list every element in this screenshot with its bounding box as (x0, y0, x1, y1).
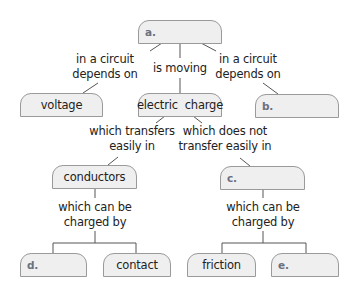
link-text-line: which can be (58, 200, 131, 215)
link-label-charge-c: which does not transfer easily in (179, 124, 272, 154)
link-text-line: transfer easily in (179, 139, 272, 154)
concept-box-contact: contact (103, 253, 171, 277)
link-label-conductors-children: which can be charged by (58, 200, 131, 230)
link-text-line: which does not (179, 124, 272, 139)
concept-box-conductors: conductors (52, 165, 137, 189)
link-text-line: charged by (226, 215, 299, 230)
link-label-a-b: in a circuit depends on (215, 52, 280, 82)
link-label-charge-conductors: which transfers easily in (89, 124, 175, 154)
blank-label: b. (262, 100, 273, 112)
link-text-line: depends on (215, 67, 280, 82)
blank-label: e. (278, 259, 289, 271)
concept-box-voltage: voltage (20, 93, 103, 117)
link-text-line: charged by (58, 215, 131, 230)
blank-label: d. (27, 259, 38, 271)
concept-label: conductors (64, 170, 126, 184)
blank-label: a. (145, 26, 156, 38)
concept-box-c[interactable]: c. (220, 166, 305, 190)
concept-box-electric-charge: electric charge (138, 93, 222, 117)
link-text-line: easily in (89, 139, 175, 154)
link-text-line: is moving (153, 61, 207, 76)
concept-box-d[interactable]: d. (20, 253, 87, 277)
concept-label: voltage (41, 98, 83, 112)
link-label-c-children: which can be charged by (226, 200, 299, 230)
concept-box-friction: friction (187, 253, 256, 277)
concept-box-b[interactable]: b. (255, 94, 339, 118)
concept-box-a[interactable]: a. (138, 20, 222, 44)
link-label-a-voltage: in a circuit depends on (72, 52, 137, 82)
blank-label: c. (227, 172, 237, 184)
concept-label: electric charge (137, 98, 223, 112)
concept-box-e[interactable]: e. (271, 253, 339, 277)
link-label-a-charge: is moving (153, 61, 207, 76)
link-text-line: depends on (72, 67, 137, 82)
link-text-line: in a circuit (72, 52, 137, 67)
concept-label: contact (116, 258, 158, 272)
concept-label: friction (202, 258, 241, 272)
link-text-line: which can be (226, 200, 299, 215)
link-text-line: which transfers (89, 124, 175, 139)
concept-map: a. voltage electric charge b. conductors… (0, 0, 361, 290)
link-text-line: in a circuit (215, 52, 280, 67)
